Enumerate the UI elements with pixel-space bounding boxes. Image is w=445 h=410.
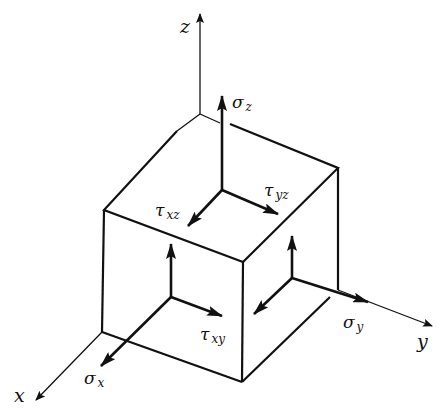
sigma-x-arrow (101, 297, 171, 366)
sigma-x-label: σx (84, 368, 105, 390)
x-axis-label: x (14, 384, 25, 406)
sigma-y-label: σy (343, 312, 364, 334)
sigma-z-label: σz (232, 92, 253, 114)
tau-xz-arrow (188, 190, 222, 226)
tau-yz-label: τyz (264, 180, 289, 202)
tau-xy-label: τxy (200, 324, 225, 346)
x-axis (36, 332, 102, 400)
y-axis-label: y (416, 330, 428, 352)
tau-xy-arrow (171, 297, 222, 316)
right-face-stresses (254, 236, 368, 314)
z-axis-label: z (179, 15, 191, 37)
stress-cube-diagram: z x y σz τxz τyz τxy σx σy (0, 0, 445, 410)
top-face-stresses (188, 96, 278, 226)
tau-xz-label: τxz (155, 200, 180, 222)
coordinate-axes (36, 14, 432, 400)
front-face-stresses (101, 244, 222, 366)
right-shear-arrow (254, 278, 292, 314)
